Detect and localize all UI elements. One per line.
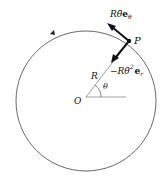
angle-label: θ xyxy=(103,82,108,91)
radial-arrow xyxy=(116,41,129,57)
point-label: P xyxy=(133,35,141,46)
direction-arrow-icon xyxy=(50,30,55,35)
radius-label: R xyxy=(90,71,98,81)
angle-arc xyxy=(95,85,101,97)
tangential-label: Rθ̈eθ xyxy=(109,9,132,20)
diagram-canvas: Rθ̈eθ P −Rθ̇2er R θ O xyxy=(0,0,164,180)
radial-label: −Rθ̇2er xyxy=(110,63,144,77)
origin-label: O xyxy=(74,96,82,106)
circular-path xyxy=(16,31,156,171)
tangential-arrow xyxy=(112,27,129,41)
